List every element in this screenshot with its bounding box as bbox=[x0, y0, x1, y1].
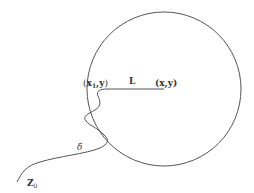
path-label: δ bbox=[77, 142, 82, 152]
start-point-label: (x1,y) bbox=[83, 78, 108, 89]
diagram-canvas: (x1,y) L (x,y) δ Z0 bbox=[0, 0, 254, 193]
origin-label: Z0 bbox=[27, 178, 38, 189]
end-point-label: (x,y) bbox=[155, 78, 177, 89]
segment-label: L bbox=[129, 76, 136, 86]
path-delta bbox=[17, 89, 107, 182]
